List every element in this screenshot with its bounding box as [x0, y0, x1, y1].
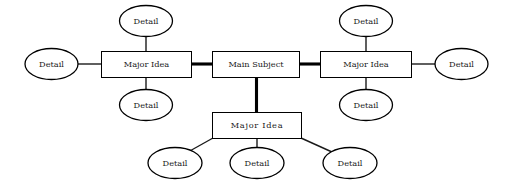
detail-bottom-left-label: Detail	[163, 158, 188, 168]
node-detail-bottom-left[interactable]: Detail	[148, 148, 202, 179]
node-detail-left-side[interactable]: Detail	[25, 49, 78, 80]
connector-major-bottom-to-detail-right	[301, 138, 332, 152]
detail-bottom-center-label: Detail	[245, 158, 270, 168]
mind-map-diagram: Detail Detail Detail Detail Detail Detai	[0, 0, 508, 191]
node-detail-right-bottom[interactable]: Detail	[340, 90, 393, 121]
node-main-subject[interactable]: Main Subject	[213, 52, 300, 78]
main-subject-label: Main Subject	[228, 59, 284, 69]
detail-left-side-label: Detail	[39, 59, 64, 69]
node-detail-bottom-right[interactable]: Detail	[323, 148, 377, 179]
detail-left-top-label: Detail	[134, 16, 159, 26]
detail-right-bottom-label: Detail	[354, 100, 379, 110]
node-detail-left-top[interactable]: Detail	[120, 6, 173, 37]
node-major-idea-left[interactable]: Major Idea	[102, 52, 192, 78]
node-detail-right-top[interactable]: Detail	[340, 6, 393, 37]
detail-right-side-label: Detail	[449, 59, 474, 69]
detail-left-bottom-label: Detail	[134, 100, 159, 110]
node-detail-left-bottom[interactable]: Detail	[120, 90, 173, 121]
node-major-idea-bottom[interactable]: Major Idea	[213, 113, 302, 139]
node-detail-bottom-center[interactable]: Detail	[230, 148, 284, 179]
mind-map-canvas: Detail Detail Detail Detail Detail Detai	[0, 0, 508, 191]
major-idea-right-label: Major Idea	[343, 59, 389, 69]
connector-major-bottom-to-detail-left	[188, 138, 213, 152]
major-idea-left-label: Major Idea	[124, 59, 170, 69]
major-idea-bottom-label: Major Idea	[231, 120, 283, 130]
detail-bottom-right-label: Detail	[338, 158, 363, 168]
node-detail-right-side[interactable]: Detail	[435, 49, 488, 80]
node-major-idea-right[interactable]: Major Idea	[321, 52, 412, 78]
detail-right-top-label: Detail	[354, 16, 379, 26]
